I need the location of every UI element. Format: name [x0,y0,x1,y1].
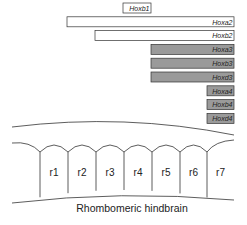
gene-bar-hoxd3: Hoxd3 [151,72,234,82]
gene-bar-hoxa3: Hoxa3 [151,44,234,54]
gene-bar-rect [67,17,234,27]
gene-bar-label: Hoxa4 [212,88,232,95]
gene-bar-label: Hoxb1 [129,5,149,12]
rhombomere-arcs [12,140,234,152]
rhombomere-label-r1: r1 [50,167,59,178]
gene-bar-hoxa4: Hoxa4 [207,86,234,96]
gene-bar-hoxb4: Hoxb4 [207,100,234,110]
rhombomere-label-r7: r7 [216,167,225,178]
gene-bar-label: Hoxa2 [212,19,232,26]
gene-bar-label: Hoxd3 [212,74,232,81]
gene-bar-hoxb3: Hoxb3 [151,58,234,68]
gene-bar-hoxa2: Hoxa2 [67,17,234,27]
gene-bar-hoxb2: Hoxb2 [95,31,234,41]
diagram-caption: Rhombomeric hindbrain [76,202,188,214]
rhombomere-label-r4: r4 [134,167,143,178]
gene-bar-label: Hoxb2 [212,32,232,39]
gene-expression-bars: Hoxb1Hoxa2Hoxb2Hoxa3Hoxb3Hoxd3Hoxa4Hoxb4… [67,3,234,123]
gene-bar-label: Hoxb4 [212,101,232,108]
gene-bar-label: Hoxb3 [212,60,232,67]
gene-bar-hoxb1: Hoxb1 [123,3,151,13]
rhombomere-label-r5: r5 [162,167,171,178]
hox-expression-diagram: Hoxb1Hoxa2Hoxb2Hoxa3Hoxb3Hoxd3Hoxa4Hoxb4… [0,0,247,225]
rhombomere-segments: r1r2r3r4r5r6r7 [12,140,234,197]
gene-bar-label: Hoxa3 [212,46,232,53]
hindbrain-top-contour [12,122,234,135]
rhombomere-label-r6: r6 [189,167,198,178]
gene-bar-hoxd4: Hoxd4 [207,113,234,123]
gene-bar-label: Hoxd4 [212,115,232,122]
rhombomere-label-r2: r2 [78,167,87,178]
rhombomere-label-r3: r3 [106,167,115,178]
